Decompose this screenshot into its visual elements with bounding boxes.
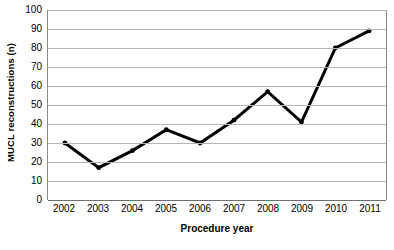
gridline [48, 29, 386, 30]
data-point-marker [232, 118, 237, 123]
x-tick-label: 2006 [189, 203, 211, 215]
y-tick-label: 90 [31, 24, 42, 34]
plot-area [47, 10, 387, 200]
data-point-marker [130, 148, 135, 153]
y-axis-tick-labels: 0102030405060708090100 [20, 0, 45, 206]
series-polyline [65, 31, 369, 168]
gridline [48, 67, 386, 68]
y-tick-label: 30 [31, 138, 42, 148]
gridline [48, 181, 386, 182]
x-tick-label: 2010 [325, 203, 347, 215]
gridline [48, 143, 386, 144]
y-tick-label: 40 [31, 119, 42, 129]
x-tick-label: 2008 [257, 203, 279, 215]
x-tick-label: 2011 [359, 203, 381, 215]
y-tick-label: 60 [31, 81, 42, 91]
x-tick-label: 2003 [87, 203, 109, 215]
data-point-marker [96, 165, 101, 170]
gridline [48, 124, 386, 125]
x-tick-label: 2009 [291, 203, 313, 215]
gridline [48, 10, 386, 11]
y-tick-label: 50 [31, 100, 42, 110]
x-tick-label: 2002 [53, 203, 75, 215]
gridline [48, 162, 386, 163]
data-point-marker [164, 127, 169, 132]
gridline [48, 48, 386, 49]
x-axis-tick-labels: 2002200320042005200620072008200920102011 [47, 203, 387, 219]
y-tick-label: 10 [31, 176, 42, 186]
data-point-marker [265, 89, 270, 94]
x-axis-title: Procedure year [47, 223, 387, 234]
y-axis-title: MUCL reconstructions (n) [0, 0, 20, 205]
line-chart: MUCL reconstructions (n) 010203040506070… [0, 0, 394, 250]
x-tick-label: 2004 [121, 203, 143, 215]
gridline [48, 105, 386, 106]
y-tick-label: 20 [31, 157, 42, 167]
axis-baseline [48, 200, 386, 201]
y-tick-label: 100 [25, 5, 42, 15]
y-tick-label: 0 [36, 195, 42, 205]
y-tick-label: 70 [31, 62, 42, 72]
y-tick-label: 80 [31, 43, 42, 53]
x-tick-label: 2007 [223, 203, 245, 215]
y-axis-title-text: MUCL reconstructions (n) [5, 43, 16, 162]
gridline [48, 86, 386, 87]
x-tick-label: 2005 [155, 203, 177, 215]
